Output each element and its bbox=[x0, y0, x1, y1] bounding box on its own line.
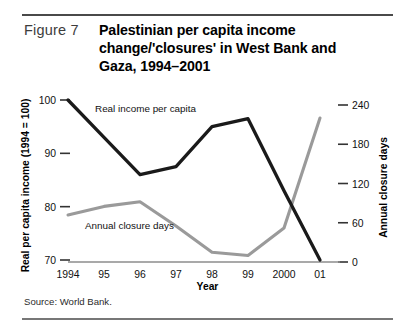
svg-text:70: 70 bbox=[44, 255, 56, 266]
svg-text:0: 0 bbox=[352, 257, 358, 268]
series-line-real-income bbox=[68, 100, 320, 260]
svg-text:240: 240 bbox=[352, 100, 370, 111]
svg-text:60: 60 bbox=[352, 218, 364, 229]
svg-text:99: 99 bbox=[242, 269, 254, 280]
bottom-divider bbox=[22, 318, 393, 320]
svg-text:1994: 1994 bbox=[56, 269, 79, 280]
svg-text:80: 80 bbox=[44, 202, 56, 213]
svg-text:01: 01 bbox=[314, 269, 326, 280]
x-axis-ticks: 19949596979899200001 bbox=[56, 269, 326, 280]
svg-text:95: 95 bbox=[98, 269, 110, 280]
svg-text:98: 98 bbox=[206, 269, 218, 280]
svg-text:97: 97 bbox=[170, 269, 182, 280]
annotation-real-income: Real income per capita bbox=[95, 103, 197, 114]
annotation-closure-days: Annual closure days bbox=[85, 220, 174, 231]
svg-text:120: 120 bbox=[352, 179, 370, 190]
svg-text:180: 180 bbox=[352, 139, 370, 150]
svg-text:96: 96 bbox=[134, 269, 146, 280]
svg-text:90: 90 bbox=[44, 148, 56, 159]
right-axis-ticks: 060120180240 bbox=[338, 100, 370, 268]
source-note: Source: World Bank. bbox=[24, 296, 112, 307]
x-axis-title: Year bbox=[0, 281, 415, 292]
svg-text:2000: 2000 bbox=[272, 269, 295, 280]
svg-text:100: 100 bbox=[39, 95, 57, 106]
left-axis-ticks: 708090100 bbox=[39, 95, 70, 266]
